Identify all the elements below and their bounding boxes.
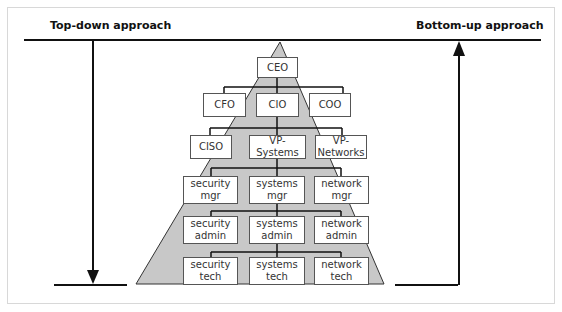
node-ceo: CEO [257,57,298,78]
node-ciso: CISO [190,135,232,159]
node-systems-mgr: systems mgr [249,176,305,204]
node-systems-admin: systems admin [249,216,305,244]
node-security-mgr: security mgr [183,176,238,204]
node-vp-networks: VP-Networks [315,135,367,159]
node-cfo: CFO [203,93,246,117]
node-network-mgr: network mgr [314,176,369,204]
top-down-arrowhead-icon [87,270,99,284]
bottom-up-arrowhead-icon [453,41,465,56]
pyramid-shape [136,42,384,284]
node-security-admin: security admin [183,216,238,244]
node-systems-tech: systems tech [249,257,305,285]
node-cio: CIO [256,93,299,117]
node-vp-systems: VP-Systems [249,135,306,159]
node-coo: COO [309,93,351,117]
node-network-admin: network admin [314,216,369,244]
node-network-tech: network tech [314,257,369,285]
node-security-tech: security tech [183,257,238,285]
